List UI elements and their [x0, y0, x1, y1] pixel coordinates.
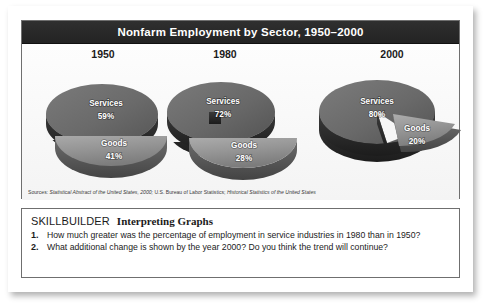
chart-title-bar: Nonfarm Employment by Sector, 1950–2000 — [22, 21, 459, 44]
services-label-2000: Services — [360, 97, 394, 106]
sources-label: Sources: — [28, 190, 48, 195]
chart-sources: Sources: Statistical Abstract of the Uni… — [28, 190, 453, 196]
figure-root: Nonfarm Employment by Sector, 1950–2000 … — [8, 6, 473, 292]
page-title: Nonfarm Employment by Sector, 1950–2000 — [117, 26, 363, 38]
pie-1950-svg: Services 59% Goods 41% — [40, 62, 167, 180]
year-label-2000: 2000 — [380, 48, 403, 60]
services-label-1950: Services — [89, 99, 123, 108]
goods-value-1980: 28% — [236, 154, 253, 163]
pie-chart-1980: Services 72% Goods 28% — [163, 62, 300, 180]
skillbuilder-heading: SKILLBUILDER Interpreting Graphs — [31, 215, 450, 227]
question-text: What additional change is shown by the y… — [47, 242, 388, 253]
list-item: 1. How much greater was the percentage o… — [31, 230, 450, 241]
list-item: 2. What additional change is shown by th… — [31, 242, 450, 253]
chart-card: Nonfarm Employment by Sector, 1950–2000 … — [21, 20, 460, 199]
pie-2000-svg: Services 80% Goods 20% — [315, 62, 461, 180]
skillbuilder-title: SKILLBUILDER — [31, 215, 110, 227]
skillbuilder-question-list: 1. How much greater was the percentage o… — [31, 230, 450, 253]
year-label-1980: 1980 — [213, 48, 236, 60]
skillbuilder-subtitle: Interpreting Graphs — [117, 215, 213, 227]
year-label-1950: 1950 — [91, 48, 114, 60]
question-text: How much greater was the percentage of e… — [47, 230, 420, 241]
chart-plot-area: 1950 1980 2000 — [22, 44, 459, 200]
services-value-2000: 80% — [369, 110, 386, 119]
sources-citation-2: U.S. Bureau of Labor Statistics; — [154, 190, 226, 195]
skillbuilder-card: SKILLBUILDER Interpreting Graphs 1. How … — [21, 208, 460, 278]
goods-label-1950: Goods — [101, 139, 127, 148]
goods-label-1980: Goods — [231, 141, 257, 150]
goods-label-2000: Goods — [404, 124, 430, 133]
sources-citation-3: Historical Statistics of the United Stat… — [227, 190, 316, 195]
services-label-1980: Services — [206, 97, 240, 106]
question-number: 2. — [31, 242, 42, 252]
pie-1980-svg: Services 72% Goods 28% — [163, 62, 300, 180]
goods-value-2000: 20% — [409, 137, 426, 146]
services-value-1980: 72% — [215, 110, 232, 119]
sources-citation-1: Statistical Abstract of the United State… — [50, 190, 153, 195]
goods-value-1950: 41% — [106, 152, 123, 161]
services-value-1950: 59% — [98, 112, 115, 121]
pie-chart-1950: Services 59% Goods 41% — [40, 62, 167, 180]
pie-chart-2000: Services 80% Goods 20% — [315, 62, 461, 180]
question-number: 1. — [31, 230, 42, 240]
